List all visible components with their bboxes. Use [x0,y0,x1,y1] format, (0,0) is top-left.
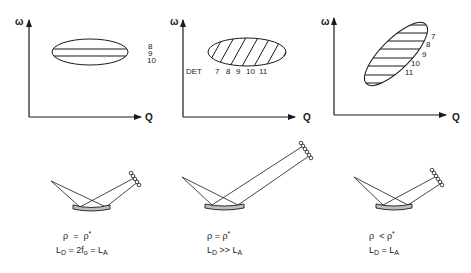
panel-3-order-11: 11 [405,68,414,77]
formula-2-line-2: LD >> LA [207,245,242,256]
panel-2-order-8: 8 [226,67,231,76]
spectrograph-diagram: ω Q 8 9 10 ω Q DET 7 8 9 10 11 [0,0,471,273]
formula-1-line-2: LD = 2fo = LA [56,245,108,256]
optics-2 [182,141,313,210]
panel-1-x-label: Q [145,112,153,123]
panel-1-ellipse [52,39,128,65]
panel-3-y-label: ω [321,16,330,27]
panel-2-hatching [205,34,296,70]
panel-2-y-label: ω [170,16,179,27]
detector-3 [430,168,444,187]
panel-2-order-7: 7 [215,67,220,76]
panel-3-plot: ω Q 7 8 9 10 11 [321,14,460,123]
panel-3-order-10: 10 [411,59,420,68]
formula-2-line-1: ρ = ρ* [207,230,230,241]
panel-3-order-8: 8 [426,40,431,49]
formula-3-line-2: LD = LA [369,245,399,256]
optics-1 [51,171,141,211]
optics-3 [354,168,444,210]
panel-1-hatching [50,49,130,56]
panel-2-x-label: Q [303,112,311,123]
panel-1-order-10: 10 [147,56,156,65]
mirror-2 [205,204,244,210]
formula-3-line-1: ρ < ρ* [369,230,395,241]
panel-2-order-9: 9 [236,67,241,76]
panel-1-plot: ω Q 8 9 10 [15,16,156,123]
detector-2 [299,141,313,160]
panel-2-order-11: 11 [259,67,268,76]
mirror-1 [73,205,110,211]
panel-3-x-label: Q [452,112,460,123]
det-label: DET [186,67,202,76]
panel-2-plot: ω Q DET 7 8 9 10 11 [170,16,311,123]
panel-3-order-7: 7 [431,32,436,41]
panel-1-y-label: ω [15,16,24,27]
panel-3-order-9: 9 [422,50,427,59]
mirror-3 [376,204,412,210]
formula-1-line-1: ρ = ρ* [63,230,91,241]
panel-2-order-10: 10 [246,67,255,76]
